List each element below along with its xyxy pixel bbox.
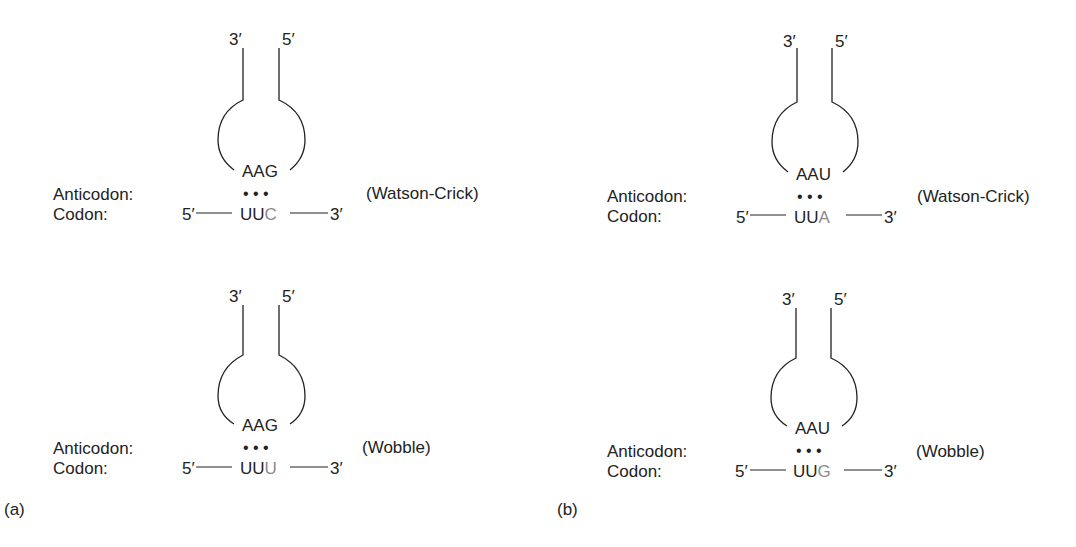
diagram-a-wobble: 3′ 5′ AAG • • • Anticodon: Codon: 5′ UUU… xyxy=(0,258,540,518)
codon-wobble-base: U xyxy=(265,459,277,478)
pairing-type-label: (Watson-Crick) xyxy=(917,188,1030,205)
codon-wobble-base: C xyxy=(265,205,277,224)
codon-3prime-label: 3′ xyxy=(884,209,897,226)
codon-sequence: UUC xyxy=(240,206,277,223)
anticodon-sequence: AAG xyxy=(242,417,278,434)
trna-3prime-label: 3′ xyxy=(782,291,795,308)
codon-sequence: UUG xyxy=(793,463,831,480)
anticodon-label: Anticodon: xyxy=(53,440,133,457)
anticodon-label: Anticodon: xyxy=(607,443,687,460)
codon-fixed-bases: UU xyxy=(794,208,819,227)
hydrogen-bond-dots: • • • xyxy=(243,185,269,202)
codon-3prime-label: 3′ xyxy=(330,206,343,223)
anticodon-sequence: AAU xyxy=(795,420,830,437)
panel-a: 3′ 5′ AAG • • • Anticodon: Codon: 5′ UUC… xyxy=(0,0,540,547)
codon-wobble-base: A xyxy=(819,208,830,227)
pairing-type-label: (Wobble) xyxy=(916,443,985,460)
codon-sequence: UUA xyxy=(794,209,830,226)
codon-5prime-label: 5′ xyxy=(182,206,195,223)
trna-5prime-label: 5′ xyxy=(835,33,848,50)
codon-5prime-label: 5′ xyxy=(735,463,748,480)
pairing-type-label: (Watson-Crick) xyxy=(366,185,479,202)
trna-5prime-label: 5′ xyxy=(282,31,295,48)
codon-wobble-base: G xyxy=(818,462,831,481)
hydrogen-bond-dots: • • • xyxy=(243,439,269,456)
hydrogen-bond-dots: • • • xyxy=(797,188,823,205)
hydrogen-bond-dots: • • • xyxy=(796,442,822,459)
trna-3prime-label: 3′ xyxy=(229,288,242,305)
codon-label: Codon: xyxy=(607,208,662,225)
codon-label: Codon: xyxy=(53,460,108,477)
trna-anticodon-loop xyxy=(0,258,540,518)
diagram-a-watson-crick: 3′ 5′ AAG • • • Anticodon: Codon: 5′ UUC… xyxy=(0,0,540,260)
panel-label-b: (b) xyxy=(557,500,578,520)
codon-fixed-bases: UU xyxy=(240,459,265,478)
codon-5prime-label: 5′ xyxy=(182,460,195,477)
trna-3prime-label: 3′ xyxy=(229,31,242,48)
codon-3prime-label: 3′ xyxy=(884,463,897,480)
codon-fixed-bases: UU xyxy=(240,205,265,224)
trna-3prime-label: 3′ xyxy=(783,33,796,50)
panel-label-a: (a) xyxy=(4,500,25,520)
codon-3prime-label: 3′ xyxy=(330,460,343,477)
codon-sequence: UUU xyxy=(240,460,277,477)
anticodon-sequence: AAG xyxy=(242,163,278,180)
trna-5prime-label: 5′ xyxy=(282,288,295,305)
codon-label: Codon: xyxy=(53,206,108,223)
anticodon-label: Anticodon: xyxy=(53,186,133,203)
panel-b: 3′ 5′ AAU • • • Anticodon: Codon: 5′ UUA… xyxy=(554,0,1076,547)
pairing-type-label: (Wobble) xyxy=(362,439,431,456)
codon-5prime-label: 5′ xyxy=(736,209,749,226)
codon-label: Codon: xyxy=(607,463,662,480)
diagram-b-wobble: 3′ 5′ AAU • • • Anticodon: Codon: 5′ UUG… xyxy=(554,258,1076,518)
anticodon-label: Anticodon: xyxy=(607,188,687,205)
trna-5prime-label: 5′ xyxy=(834,291,847,308)
codon-fixed-bases: UU xyxy=(793,462,818,481)
diagram-b-watson-crick: 3′ 5′ AAU • • • Anticodon: Codon: 5′ UUA… xyxy=(554,0,1076,260)
anticodon-sequence: AAU xyxy=(796,166,831,183)
